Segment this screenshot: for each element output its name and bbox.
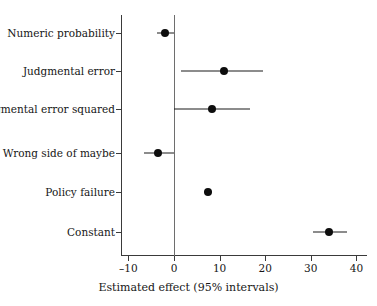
x-axis-tick: [265, 256, 266, 261]
y-axis-tick: [116, 71, 122, 72]
y-axis-spine: [121, 15, 122, 255]
x-axis-spine: [121, 255, 367, 256]
y-axis-label-wrong-side-of-maybe: Wrong side of maybe: [3, 148, 115, 159]
estimate-point-judgmental-error: [220, 67, 228, 75]
estimate-point-judgmental-error-squared: [208, 105, 216, 113]
x-axis-tick: [311, 256, 312, 261]
x-axis-tick-label: 0: [171, 263, 178, 274]
y-axis-label-policy-failure: Policy failure: [45, 187, 115, 198]
x-axis-tick-label: –10: [119, 263, 138, 274]
y-axis-tick: [116, 232, 122, 233]
x-axis-tick-label: 10: [213, 263, 226, 274]
estimate-point-numeric-probability: [161, 29, 169, 37]
x-axis-tick: [174, 256, 175, 261]
y-axis-tick: [116, 33, 122, 34]
x-axis-tick-label: 20: [259, 263, 272, 274]
zero-reference-line: [174, 15, 175, 256]
x-axis-tick: [220, 256, 221, 261]
y-axis-tick: [116, 109, 122, 110]
x-axis-tick-label: 40: [350, 263, 363, 274]
y-axis-label-judgmental-error-squared: Judgmental error squared: [0, 104, 115, 115]
estimate-point-constant: [325, 228, 333, 236]
y-axis-label-judgmental-error: Judgmental error: [23, 66, 115, 77]
y-axis-tick: [116, 192, 122, 193]
y-axis-tick: [116, 153, 122, 154]
x-axis-tick: [356, 256, 357, 261]
coefficient-plot-figure: Numeric probabilityJudgmental errorJudgm…: [0, 0, 377, 306]
x-axis-title: Estimated effect (95% intervals): [0, 281, 377, 294]
estimate-point-wrong-side-of-maybe: [154, 149, 162, 157]
x-axis-tick: [128, 256, 129, 261]
estimate-point-policy-failure: [204, 188, 212, 196]
x-axis-tick-label: 30: [304, 263, 317, 274]
y-axis-label-constant: Constant: [67, 227, 115, 238]
y-axis-label-numeric-probability: Numeric probability: [7, 28, 115, 39]
